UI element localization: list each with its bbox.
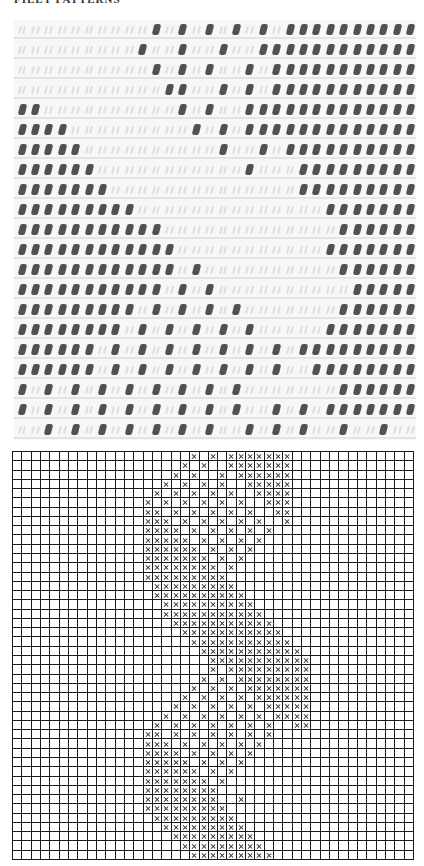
empty-cell: [134, 545, 143, 554]
filled-block: [156, 126, 160, 134]
empty-cell: [200, 767, 209, 776]
filled-block: [138, 106, 142, 114]
empty-cell: [88, 777, 97, 786]
empty-cell: [200, 730, 209, 739]
empty-cell: [125, 712, 134, 721]
empty-cell: [237, 563, 246, 572]
filled-block: [125, 26, 129, 34]
empty-cell: [255, 786, 264, 795]
filled-cell: [227, 823, 236, 832]
open-mesh: [285, 104, 295, 115]
empty-cell: [358, 730, 367, 739]
empty-cell: [330, 730, 339, 739]
empty-cell: [405, 535, 414, 544]
empty-cell: [13, 573, 22, 582]
empty-cell: [395, 582, 404, 591]
filled-block: [250, 306, 254, 314]
empty-cell: [339, 795, 348, 804]
filled-cell: [200, 693, 209, 702]
filled-block: [130, 166, 134, 174]
empty-cell: [367, 619, 376, 628]
filled-block: [170, 306, 174, 314]
filled-block: [299, 246, 303, 254]
empty-cell: [134, 665, 143, 674]
empty-cell: [405, 739, 414, 748]
empty-cell: [377, 545, 386, 554]
empty-cell: [172, 637, 181, 646]
empty-cell: [181, 665, 190, 674]
filled-block: [259, 86, 263, 94]
empty-cell: [134, 461, 143, 470]
filled-block: [125, 326, 129, 334]
filled-cell: [246, 619, 255, 628]
open-mesh: [393, 104, 403, 115]
empty-cell: [106, 471, 115, 480]
open-mesh: [352, 404, 362, 415]
empty-cell: [134, 628, 143, 637]
open-mesh: [379, 64, 389, 75]
empty-cell: [200, 684, 209, 693]
filled-block: [250, 246, 254, 254]
filled-cell: [162, 554, 171, 563]
empty-cell: [50, 471, 59, 480]
open-mesh: [326, 364, 336, 375]
filled-block: [317, 326, 321, 334]
filled-block: [210, 266, 214, 274]
open-mesh: [299, 144, 309, 155]
empty-cell: [88, 841, 97, 850]
empty-cell: [125, 563, 134, 572]
filled-block: [290, 366, 294, 374]
filled-cell: [144, 508, 153, 517]
empty-cell: [311, 554, 320, 563]
filled-cell: [255, 656, 264, 665]
empty-cell: [405, 526, 414, 535]
filled-cell: [153, 749, 162, 758]
filled-cell: [190, 554, 199, 563]
filled-block: [89, 126, 93, 134]
empty-cell: [377, 619, 386, 628]
filled-block: [210, 366, 214, 374]
empty-cell: [78, 693, 87, 702]
empty-cell: [125, 517, 134, 526]
empty-cell: [134, 573, 143, 582]
filled-cell: [153, 804, 162, 813]
filled-cell: [218, 832, 227, 841]
filled-block: [210, 246, 214, 254]
filled-cell: [172, 508, 181, 517]
empty-cell: [339, 702, 348, 711]
empty-cell: [293, 452, 302, 461]
photo-row: [14, 360, 416, 380]
filled-cell: [237, 554, 246, 563]
empty-cell: [358, 508, 367, 517]
open-mesh: [17, 184, 27, 195]
empty-cell: [311, 517, 320, 526]
filled-cell: [237, 628, 246, 637]
empty-cell: [274, 535, 283, 544]
empty-cell: [246, 739, 255, 748]
empty-cell: [321, 554, 330, 563]
open-mesh: [205, 304, 215, 315]
filled-cell: [172, 767, 181, 776]
filled-block: [326, 266, 330, 274]
empty-cell: [405, 573, 414, 582]
empty-cell: [60, 804, 69, 813]
filled-block: [245, 186, 249, 194]
empty-cell: [22, 712, 31, 721]
empty-cell: [321, 767, 330, 776]
empty-cell: [134, 767, 143, 776]
filled-cell: [172, 573, 181, 582]
empty-cell: [13, 804, 22, 813]
empty-cell: [321, 452, 330, 461]
empty-cell: [162, 730, 171, 739]
filled-block: [143, 146, 147, 154]
filled-cell: [181, 591, 190, 600]
empty-cell: [69, 767, 78, 776]
filled-cell: [172, 610, 181, 619]
open-mesh: [151, 384, 161, 395]
photo-row: [14, 40, 416, 60]
open-mesh: [31, 284, 41, 295]
empty-cell: [144, 471, 153, 480]
empty-cell: [32, 702, 41, 711]
empty-cell: [339, 535, 348, 544]
empty-cell: [60, 600, 69, 609]
